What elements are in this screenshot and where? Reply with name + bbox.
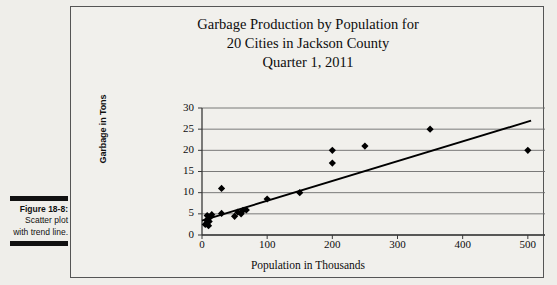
data-point-18 <box>361 143 368 150</box>
data-point-17 <box>329 159 336 166</box>
y-axis-tick-25: 25 <box>168 122 194 134</box>
data-point-16 <box>329 147 336 154</box>
x-axis-tick-200: 200 <box>312 238 352 250</box>
figure-caption-text: Figure 18-8: Scatter plot with trend lin… <box>10 201 68 241</box>
y-axis-tick-20: 20 <box>168 143 194 155</box>
data-point-20 <box>524 147 531 154</box>
caption-rule-bottom <box>10 241 68 246</box>
y-axis-tick-10: 10 <box>168 185 194 197</box>
y-axis-tick-30: 30 <box>168 101 194 113</box>
x-axis-tick-0: 0 <box>182 238 222 250</box>
data-point-8 <box>218 185 225 192</box>
data-point-19 <box>426 126 433 133</box>
plot-area: Garbage in Tons Population in Thousands … <box>71 7 545 279</box>
x-axis-tick-400: 400 <box>443 238 483 250</box>
x-axis-tick-300: 300 <box>378 238 418 250</box>
x-axis-tick-100: 100 <box>247 238 287 250</box>
trend-line <box>202 121 531 221</box>
y-axis-tick-15: 15 <box>168 164 194 176</box>
x-axis-tick-500: 500 <box>508 238 548 250</box>
chart-container: Garbage Production by Population for 20 … <box>70 6 544 278</box>
y-axis-tick-5: 5 <box>168 206 194 218</box>
figure-caption-body: Scatter plot with trend line. <box>10 215 68 238</box>
figure-caption-label: Figure 18-8: <box>10 204 68 215</box>
figure-caption-block: Figure 18-8: Scatter plot with trend lin… <box>10 196 68 246</box>
